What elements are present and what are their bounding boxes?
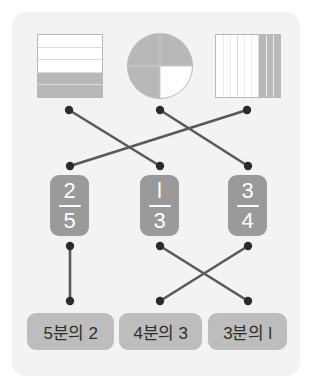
- fraction-bar: [59, 205, 81, 207]
- node-dot-shape3[interactable]: [243, 106, 251, 114]
- fraction-bar: [149, 205, 171, 207]
- node-dot-shape1[interactable]: [65, 106, 73, 114]
- word-pill-3bunui1[interactable]: 3분의 l: [208, 313, 287, 350]
- node-dot-card3-top[interactable]: [244, 162, 252, 170]
- fraction-card-one-third[interactable]: l 3: [140, 175, 179, 236]
- link-shape2-to-card3[interactable]: [160, 110, 248, 166]
- fraction-card-three-quarters[interactable]: 3 4: [228, 175, 267, 236]
- link-shape1-to-card2[interactable]: [69, 110, 160, 166]
- fraction-numerator: 2: [63, 180, 75, 202]
- fraction-denominator: 5: [63, 210, 75, 232]
- fraction-bar: [237, 205, 259, 207]
- fraction-numerator: l: [157, 180, 162, 202]
- node-dot-pill3[interactable]: [244, 297, 252, 305]
- word-pill-5bunui2[interactable]: 5분의 2: [27, 313, 114, 350]
- node-dot-shape2[interactable]: [156, 106, 164, 114]
- fraction-card-two-fifths[interactable]: 2 5: [50, 175, 89, 236]
- link-shape3-to-card1[interactable]: [70, 110, 247, 166]
- fraction-denominator: 4: [241, 210, 253, 232]
- fraction-denominator: 3: [153, 210, 165, 232]
- node-dot-card2-bottom[interactable]: [156, 242, 164, 250]
- word-pill-4bunui3[interactable]: 4분의 3: [119, 313, 202, 350]
- node-dot-pill1[interactable]: [66, 297, 74, 305]
- node-dot-card3-bottom[interactable]: [244, 242, 252, 250]
- node-dot-pill2[interactable]: [156, 297, 164, 305]
- node-dot-card1-bottom[interactable]: [66, 242, 74, 250]
- worksheet-stage: 2 5 l 3 3 4 5분의 2 4분의 3 3분의 l: [0, 0, 312, 388]
- node-dot-card1-top[interactable]: [66, 162, 74, 170]
- node-dot-card2-top[interactable]: [156, 162, 164, 170]
- fraction-numerator: 3: [241, 180, 253, 202]
